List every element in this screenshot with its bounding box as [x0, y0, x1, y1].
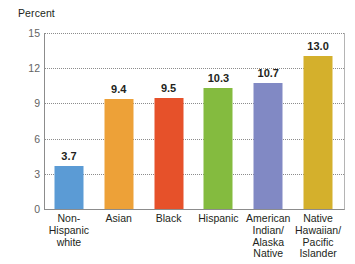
y-tick-label: 9 — [2, 98, 40, 109]
x-axis-category-labels: Non- Hispanic whiteAsianBlackHispanicAme… — [44, 213, 343, 263]
y-tick-label: 12 — [2, 63, 40, 74]
y-axis-title: Percent — [18, 7, 55, 19]
bar-chart: Percent 15 12 9 6 3 0 3.79.49.510.310.71… — [0, 0, 355, 264]
bar-group[interactable]: 3.7 — [44, 33, 94, 209]
bar-group[interactable]: 10.7 — [243, 33, 293, 209]
bar-value-label: 9.5 — [161, 83, 176, 94]
y-tick-label: 15 — [2, 28, 40, 39]
bar-group[interactable]: 9.5 — [144, 33, 194, 209]
bar-value-label: 3.7 — [61, 151, 76, 162]
bar-value-label: 13.0 — [307, 41, 328, 52]
bar-value-label: 10.3 — [208, 73, 229, 84]
y-tick-label: 6 — [2, 134, 40, 145]
bar-value-label: 9.4 — [111, 84, 126, 95]
y-tick-label: 0 — [2, 204, 40, 215]
bar[interactable] — [254, 83, 283, 209]
bar[interactable] — [304, 56, 333, 209]
bar-group[interactable]: 9.4 — [94, 33, 144, 209]
bar-group[interactable]: 10.3 — [194, 33, 244, 209]
bar[interactable] — [104, 99, 133, 209]
bar-value-label: 10.7 — [258, 68, 279, 79]
x-category-label: Native Hawaiian/ Pacific Islander — [289, 213, 347, 260]
y-tick-label: 3 — [2, 169, 40, 180]
bar[interactable] — [204, 88, 233, 209]
bar[interactable] — [154, 98, 183, 209]
bar-group[interactable]: 13.0 — [293, 33, 343, 209]
bars-layer: 3.79.49.510.310.713.0 — [44, 33, 343, 209]
bar[interactable] — [54, 166, 83, 209]
